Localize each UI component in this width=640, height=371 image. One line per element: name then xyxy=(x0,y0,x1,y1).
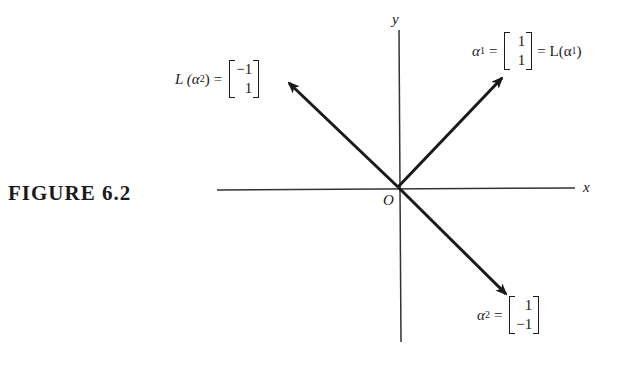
y-axis-label: y xyxy=(392,12,399,27)
equals-sign: = xyxy=(214,72,222,87)
origin-label: O xyxy=(383,193,394,208)
vector-L-alpha2-arrow xyxy=(289,83,398,187)
alpha1-rhs: = L(α xyxy=(537,44,571,59)
alpha1-subscript: 1 xyxy=(480,46,485,56)
matrix-cell: −1 xyxy=(516,315,532,334)
matrix-cell: −1 xyxy=(236,60,252,79)
L-alpha2-lhs: L (α xyxy=(175,72,200,87)
alpha1-matrix: 1 1 xyxy=(504,32,532,70)
x-axis-label: x xyxy=(583,180,590,195)
figure-caption: FIGURE 6.2 xyxy=(8,181,131,206)
vector-alpha2-arrow xyxy=(398,187,506,294)
matrix-cell: 1 xyxy=(511,32,525,51)
equals-sign: = xyxy=(494,308,502,323)
matrix-cell: 1 xyxy=(511,51,525,70)
alpha1-symbol: α xyxy=(472,44,480,59)
L-alpha2-matrix: −1 1 xyxy=(229,60,259,98)
L-alpha2-label: L (α2) = −1 1 xyxy=(175,60,262,98)
alpha1-label: α1 = 1 1 = L(α1) xyxy=(472,32,582,70)
vector-alpha1-arrow xyxy=(398,78,502,187)
alpha2-matrix: 1 −1 xyxy=(509,296,539,334)
matrix-cell: 1 xyxy=(516,296,532,315)
alpha1-rhs-close: ) xyxy=(577,44,582,59)
L-alpha2-close: ) xyxy=(205,72,210,87)
alpha2-subscript: 2 xyxy=(485,310,490,320)
alpha2-label: α2 = 1 −1 xyxy=(477,296,542,334)
alpha2-symbol: α xyxy=(477,308,485,323)
equals-sign: = xyxy=(489,44,497,59)
x-axis xyxy=(217,188,575,190)
matrix-cell: 1 xyxy=(236,79,252,98)
